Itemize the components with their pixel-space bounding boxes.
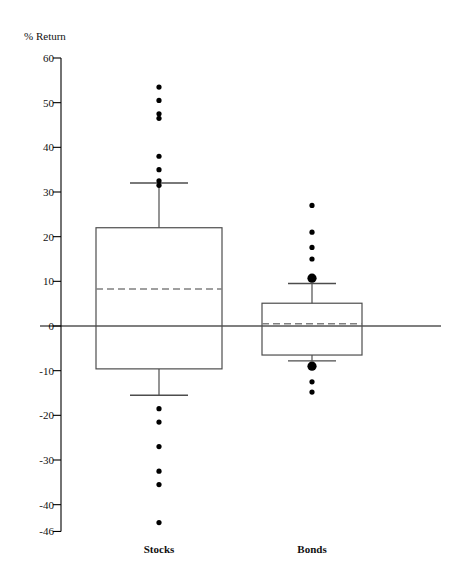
outlier-point [156,111,161,116]
outlier-point-large [307,274,316,283]
y-axis [53,58,61,531]
outlier-point [156,406,161,411]
category-label-bonds: Bonds [297,543,326,555]
outlier-point [156,419,161,424]
outlier-point [156,444,161,449]
category-label-stocks: Stocks [144,543,175,555]
outlier-point [156,520,161,525]
box-stocks [96,84,222,525]
outlier-point [156,84,161,89]
outlier-point [156,167,161,172]
outlier-point [309,230,314,235]
box-iqr [262,303,362,355]
boxplot-figure: % Return 6050403020100-10-20-30-40-46 St… [0,0,463,587]
outlier-point [156,178,161,183]
outlier-point-large [307,362,316,371]
outlier-point [309,203,314,208]
outlier-point [309,256,314,261]
outlier-point [309,379,314,384]
outlier-point [156,482,161,487]
box-iqr [96,228,222,369]
box-bonds [262,203,362,395]
outlier-point [156,469,161,474]
plot-canvas [0,0,463,587]
outlier-point [309,245,314,250]
outlier-point [156,98,161,103]
outlier-point [156,183,161,188]
outlier-point [309,390,314,395]
outlier-point [156,116,161,121]
outlier-point [156,154,161,159]
